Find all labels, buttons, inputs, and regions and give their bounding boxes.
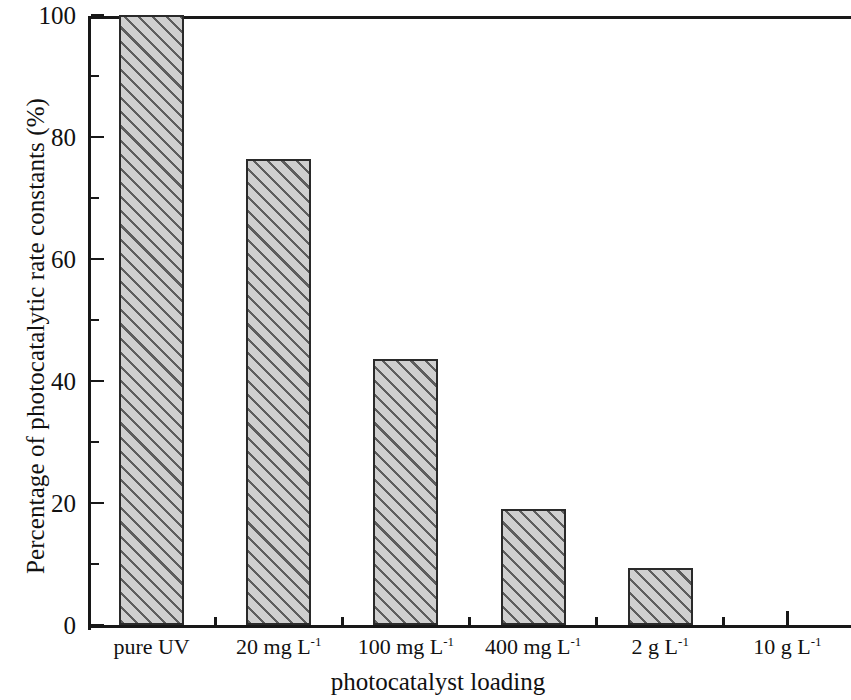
y-axis-tick-major	[91, 380, 104, 382]
y-axis-tick-label-wrap: 40	[76, 380, 77, 382]
y-axis-tick-label: 40	[51, 369, 76, 394]
y-axis-tick-label-wrap: 20	[76, 502, 77, 504]
unit-exponent: -1	[678, 634, 689, 649]
y-axis-tick-minor	[91, 75, 99, 77]
bar	[628, 568, 693, 625]
bar	[373, 359, 438, 625]
y-axis-tick-major	[91, 502, 104, 504]
y-axis-tick-minor	[91, 563, 99, 565]
y-axis-tick-label: 100	[39, 3, 77, 28]
x-axis-line	[88, 625, 851, 628]
y-axis-tick-label-wrap: 100	[76, 14, 77, 16]
y-axis-tick-label: 80	[51, 125, 76, 150]
x-axis-tick-minor	[722, 617, 725, 625]
x-axis-tick-minor	[595, 617, 598, 625]
y-axis-tick-minor	[91, 319, 99, 321]
y-axis-tick-label-wrap: 60	[76, 258, 77, 260]
bar-chart-figure: Percentage of photocatalytic rate consta…	[0, 0, 851, 700]
x-axis-category-label: 10 g L-1	[697, 636, 851, 658]
x-axis-tick-minor	[341, 617, 344, 625]
y-axis-tick-minor	[91, 441, 99, 443]
y-axis-tick-label-wrap: 80	[76, 136, 77, 138]
y-axis-tick-major	[91, 14, 104, 16]
x-axis-tick-major	[786, 611, 789, 625]
y-axis-tick-label: 60	[51, 247, 76, 272]
y-axis-line	[88, 16, 91, 630]
bar	[119, 15, 184, 625]
y-axis-tick-minor	[91, 197, 99, 199]
y-axis-tick-major	[91, 624, 104, 626]
unit-exponent: -1	[811, 634, 822, 649]
y-axis-tick-label-wrap: 0	[76, 624, 77, 626]
bar	[501, 509, 566, 625]
y-axis-tick-major	[91, 136, 104, 138]
y-axis-tick-major	[91, 258, 104, 260]
x-axis-tick-minor	[214, 617, 217, 625]
x-axis-tick-minor	[468, 617, 471, 625]
y-axis-tick-label: 20	[51, 491, 76, 516]
plot-frame-top	[88, 16, 851, 19]
y-axis-title: Percentage of photocatalytic rate consta…	[22, 26, 50, 646]
y-axis-tick-label: 0	[64, 613, 77, 638]
plot-area: 020406080100	[88, 18, 851, 628]
x-axis-title: photocatalyst loading	[88, 668, 788, 696]
bar	[246, 159, 311, 625]
